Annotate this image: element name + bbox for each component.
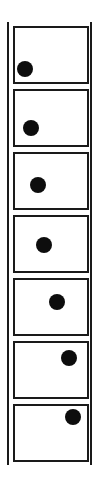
left-rail xyxy=(7,22,9,465)
frame-6 xyxy=(13,341,89,399)
frame-2 xyxy=(13,89,89,147)
ball-icon xyxy=(49,294,65,310)
ball-icon xyxy=(17,61,33,77)
frame-3 xyxy=(13,152,89,210)
ball-icon xyxy=(30,177,46,193)
ball-icon xyxy=(36,237,52,253)
right-rail xyxy=(90,22,92,465)
ball-icon xyxy=(23,120,39,136)
ball-icon xyxy=(65,409,81,425)
ball-icon xyxy=(61,350,77,366)
